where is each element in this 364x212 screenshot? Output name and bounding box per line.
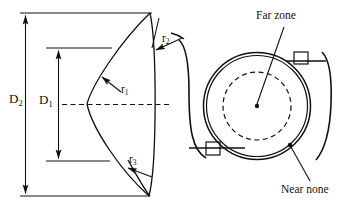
label-r1-sub: 1: [125, 88, 129, 97]
label-r2-sub: 2: [166, 37, 170, 46]
label-d2-sub: 2: [18, 98, 22, 108]
far-zone-dot: [255, 104, 259, 108]
r3-leader: [128, 168, 152, 177]
figure-root: D2 D1 r1 r2 r3 Far zone Near none: [0, 0, 364, 212]
label-d2: D2: [9, 92, 23, 105]
far-zone-leader: [257, 27, 284, 104]
near-zone-leader: [291, 147, 310, 181]
label-d1-sub: 1: [48, 99, 52, 109]
r1-leader: [102, 77, 121, 92]
haptic-left-curve: [179, 40, 206, 158]
label-r2: r2: [162, 33, 170, 45]
near-zone-dot: [288, 143, 292, 147]
label-r3-sub: 3: [133, 158, 137, 167]
label-d1-base: D: [39, 92, 48, 107]
label-near-zone: Near none: [281, 184, 329, 196]
figure-canvas: [0, 0, 364, 212]
label-r3: r3: [129, 154, 137, 166]
label-r1: r1: [121, 84, 129, 96]
label-d2-base: D: [9, 91, 18, 106]
label-d1: D1: [39, 93, 53, 106]
haptic-left-tail: [171, 33, 184, 39]
haptic-right-curve: [316, 52, 331, 160]
label-far-zone: Far zone: [256, 10, 296, 22]
front-view-group: [171, 27, 331, 181]
tab-upper-right: [294, 52, 308, 64]
